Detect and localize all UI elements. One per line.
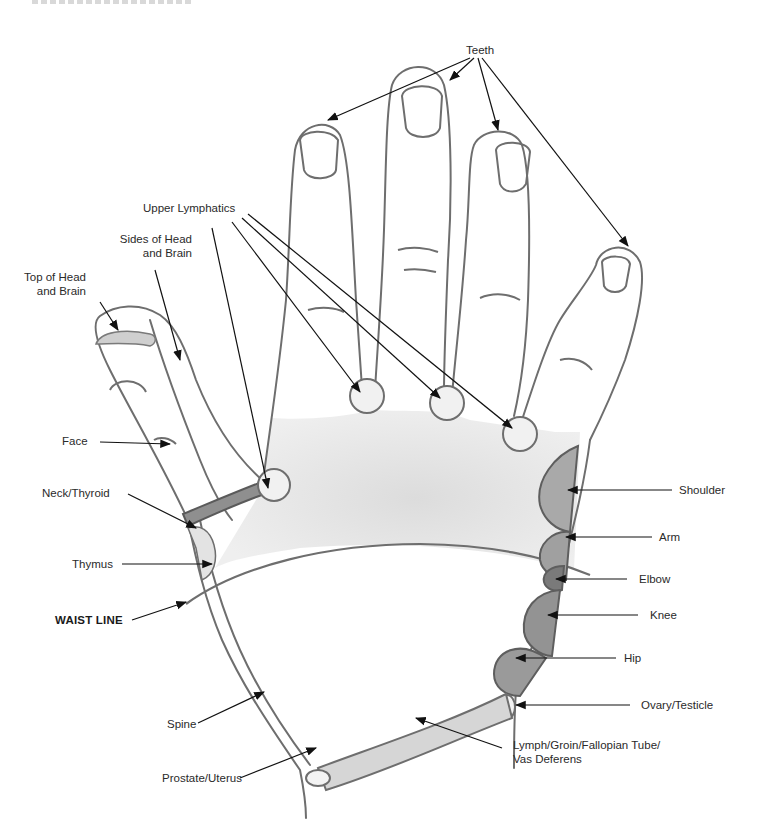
label-sides-of-head-line2: and Brain	[100, 246, 192, 260]
label-teeth: Teeth	[466, 43, 494, 57]
hand-reflexology-diagram: Teeth Upper Lymphatics Sides of Head and…	[0, 0, 761, 821]
label-spine: Spine	[167, 717, 196, 731]
hip-zone	[494, 649, 546, 696]
knee-zone	[524, 590, 560, 656]
label-waist-line: WAIST LINE	[55, 613, 123, 627]
label-upper-lymphatics: Upper Lymphatics	[143, 201, 235, 215]
label-lymph-groin-line1: Lymph/Groin/Fallopian Tube/	[513, 738, 660, 752]
label-sides-of-head-line1: Sides of Head	[100, 232, 192, 246]
label-top-of-head-line2: and Brain	[20, 284, 86, 298]
label-lymph-groin-line2: Vas Deferens	[513, 752, 582, 766]
label-knee: Knee	[650, 608, 677, 622]
label-thymus: Thymus	[72, 557, 113, 571]
label-hip: Hip	[624, 651, 641, 665]
label-face: Face	[62, 434, 88, 448]
label-arm: Arm	[659, 530, 680, 544]
lymph-groin-band	[318, 694, 512, 790]
thymus-zone	[188, 527, 216, 580]
label-neck-thyroid: Neck/Thyroid	[42, 486, 110, 500]
label-elbow: Elbow	[639, 572, 670, 586]
label-ovary-testicle: Ovary/Testicle	[641, 698, 713, 712]
label-prostate-uterus: Prostate/Uterus	[162, 771, 242, 785]
prostate-uterus-zone	[306, 770, 330, 786]
cropped-header-text	[32, 0, 192, 4]
top-of-head-zone	[96, 331, 155, 346]
label-top-of-head-line1: Top of Head	[20, 270, 86, 284]
label-shoulder: Shoulder	[679, 483, 725, 497]
